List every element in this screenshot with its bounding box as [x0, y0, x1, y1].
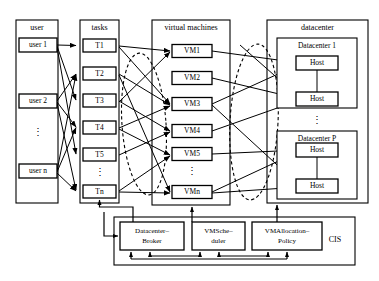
datacenter-broker-label-line2: Broker [142, 237, 162, 245]
diagram-canvas: user tasks virtual machines datacenter [0, 0, 379, 281]
vmscheduler-label-line1: VMSche– [204, 227, 233, 235]
user-box-label: user n [29, 166, 47, 175]
tasks-column-title: tasks [92, 23, 108, 32]
host-box-label: Host [310, 181, 325, 190]
cis-component-vmscheduler: VMSche– duler [192, 222, 245, 250]
cis-component-vmallocationpolicy: VMAllocation– Policy [252, 222, 322, 250]
user-ellipsis: ⋮ [33, 126, 43, 137]
vmscheduler-label-line2: duler [211, 237, 226, 245]
datacenter-1-title: Datacenter 1 [298, 41, 336, 50]
datacenter-broker-label-line1: Datacenter– [135, 227, 169, 235]
task-box-label: T1 [95, 41, 104, 50]
vm-box-label: VM3 [184, 99, 200, 108]
vmallocationpolicy-label-line2: Policy [278, 237, 296, 245]
task-box-label: Tn [95, 187, 104, 196]
host-box-label: Host [310, 145, 325, 154]
user-box-label: user 1 [29, 40, 47, 49]
task-box-label: T3 [95, 96, 104, 105]
datacenter-p-title: Datacenter P [298, 134, 337, 143]
task-box-label: T4 [95, 123, 104, 132]
task-box-label: T5 [95, 150, 104, 159]
vm-box-label: VM4 [184, 126, 200, 135]
vmallocationpolicy-label-line1: VMAllocation– [265, 227, 310, 235]
user-task-links [57, 45, 76, 191]
vm-ellipsis: ⋮ [187, 165, 197, 176]
datacenter-group-p: Datacenter P Host Host [277, 131, 357, 199]
task-ellipsis: ⋮ [95, 166, 105, 177]
architecture-diagram: user tasks virtual machines datacenter [0, 0, 379, 281]
host-box-label: Host [310, 94, 325, 103]
vm-box-label: VMn [184, 187, 200, 196]
datacenter-column-title: datacenter [301, 23, 334, 32]
vm-box-label: VM2 [184, 73, 200, 82]
cis-component-broker: Datacenter– Broker [120, 222, 184, 250]
datacenter-group-1: Datacenter 1 Host Host [277, 38, 357, 108]
task-box-label: T2 [95, 69, 104, 78]
cis-label: CIS [329, 235, 341, 244]
vm-box-label: VM1 [184, 46, 200, 55]
datacenter-ellipsis: ⋮ [312, 114, 322, 125]
host-box-label: Host [310, 58, 325, 67]
user-box-label: user 2 [29, 96, 47, 105]
user-column-title: user [30, 23, 44, 32]
vms-column-title: virtual machines [164, 23, 217, 32]
vm-box-label: VM5 [184, 149, 200, 158]
